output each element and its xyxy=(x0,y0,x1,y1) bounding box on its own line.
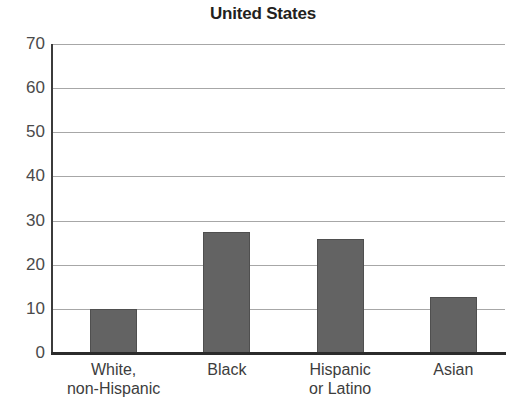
y-tick-label-10: 10 xyxy=(3,300,45,317)
gridline-40 xyxy=(52,176,505,177)
bar xyxy=(90,309,137,353)
x-axis-label: White, non-Hispanic xyxy=(57,360,170,398)
y-tick-label-50: 50 xyxy=(3,123,45,140)
gridline-50 xyxy=(52,132,505,133)
x-axis-label: Hispanic or Latino xyxy=(284,360,397,398)
gridline-30 xyxy=(52,221,505,222)
y-axis-tick-labels: 706050403020100 xyxy=(0,0,45,419)
y-tick-label-70: 70 xyxy=(3,35,45,52)
y-tick-label-60: 60 xyxy=(3,79,45,96)
y-tick-label-0: 0 xyxy=(3,344,45,361)
y-tick-label-30: 30 xyxy=(3,212,45,229)
bar xyxy=(317,239,364,353)
y-tick-label-40: 40 xyxy=(3,167,45,184)
gridline-70 xyxy=(52,44,505,45)
y-tick-label-20: 20 xyxy=(3,256,45,273)
bar xyxy=(203,232,250,353)
plot-area xyxy=(52,44,505,353)
y-axis-line xyxy=(51,44,53,355)
gridline-20 xyxy=(52,265,505,266)
gridline-60 xyxy=(52,88,505,89)
x-axis-label: Asian xyxy=(397,360,510,379)
chart-title: United States xyxy=(0,4,526,24)
x-axis-label: Black xyxy=(170,360,283,379)
bar xyxy=(430,297,477,353)
x-axis-line xyxy=(51,352,506,355)
bar-chart: United States 706050403020100 White, non… xyxy=(0,0,526,419)
